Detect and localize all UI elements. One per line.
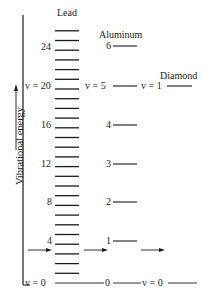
- al-label-6: 6: [106, 41, 111, 51]
- lead-title: Lead: [57, 8, 77, 18]
- lead-label-20: v = 20: [25, 81, 51, 91]
- al-label-5: v = 5: [85, 81, 106, 91]
- arrow-head-lead-icon: [46, 248, 52, 252]
- lead-label-4: 4: [47, 236, 52, 246]
- lead-label-12: 12: [41, 159, 51, 169]
- lead-label-8: 8: [47, 197, 52, 207]
- lead-label-0: v = 0: [25, 278, 46, 288]
- energy-level-diagram: Vibrational energy Lead Aluminum Diamond…: [0, 0, 212, 298]
- aluminum-energy-levels: [113, 46, 141, 283]
- al-label-1: 1: [106, 236, 111, 246]
- al-label-4: 4: [106, 120, 111, 130]
- lead-energy-levels: [55, 31, 79, 273]
- diamond-label-1: v = 1: [141, 81, 162, 91]
- lead-label-16: 16: [41, 120, 51, 130]
- arrow-head-diamond-icon: [159, 248, 165, 252]
- axis-arrow-icon: [14, 84, 18, 91]
- diamond-title: Diamond: [160, 71, 197, 81]
- diamond-label-0: v = 0: [141, 278, 164, 288]
- arrow-head-aluminum-icon: [102, 248, 108, 252]
- aluminum-title: Aluminum: [99, 30, 142, 40]
- lead-label-24: 24: [41, 42, 51, 52]
- al-label-3: 3: [106, 159, 111, 169]
- al-label-2: 2: [106, 197, 111, 207]
- y-axis-label: Vibrational energy: [14, 91, 26, 201]
- diamond-energy-levels: [167, 86, 197, 283]
- al-label-0: 0: [104, 278, 111, 288]
